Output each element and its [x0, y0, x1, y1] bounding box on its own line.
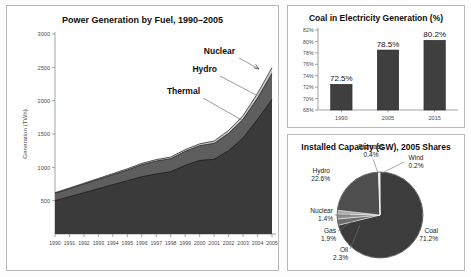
pie-label-name-nuclear: Nuclear — [310, 207, 334, 214]
area-annotations: NuclearHydroThermal — [167, 46, 259, 123]
bar-rect — [331, 84, 352, 110]
bar-y-tick-label: 72% — [303, 84, 314, 90]
pie-label-percent-oil: 2.3% — [333, 254, 348, 261]
area-x-tick-label: 2002 — [223, 240, 235, 246]
area-x-tick-label: 1997 — [150, 240, 162, 246]
bar-value-label: 80.2% — [423, 30, 446, 39]
area-bands — [55, 68, 272, 234]
bar-x-tick-label: 1990 — [335, 115, 347, 121]
area-x-tick-label: 1999 — [179, 240, 191, 246]
area-chart-plot: 5001000150020002500300019901991199219931… — [7, 6, 280, 272]
installed-capacity-pie-panel: Installed Capacity (GW), 2005 Shares Coa… — [287, 134, 465, 271]
annotation-label-thermal: Thermal — [167, 86, 200, 96]
annotation-leader-nuclear — [239, 58, 259, 69]
pie-label-percent-gas: 1.9% — [321, 235, 336, 242]
area-y-tick-label: 1500 — [38, 131, 50, 137]
area-x-tick-label: 2005 — [266, 240, 278, 246]
area-y-tick-label: 1000 — [38, 165, 50, 171]
area-y-tick-label: 3000 — [38, 31, 50, 37]
area-x-tick-label: 1996 — [136, 240, 148, 246]
annotation-leader-thermal — [203, 98, 247, 123]
pie-label-name-oil: Oil — [340, 246, 349, 253]
bar-y-tick-label: 78% — [303, 50, 314, 56]
bar-x-tick-label: 2015 — [428, 115, 440, 121]
area-y-axis-title: Generation (TWh) — [21, 109, 28, 159]
bar-y-tick-label: 80% — [303, 39, 314, 45]
pie-label-name-hydro: Hydro — [312, 167, 330, 175]
annotation-label-hydro: Hydro — [192, 64, 217, 74]
bar-y-tick-label: 82% — [303, 27, 314, 33]
pie-leader-wind — [382, 162, 404, 173]
area-x-tick-label: 1994 — [107, 240, 119, 246]
bar-rect — [424, 40, 445, 110]
area-y-tick-label: 500 — [41, 198, 50, 204]
pie-label-percent-coal: 71.2% — [419, 235, 438, 242]
pie-label-name-wind: Wind — [408, 154, 423, 161]
area-x-tick-label: 1991 — [64, 240, 76, 246]
pie-label-name-biomass: Biomass — [358, 143, 384, 150]
pie-label-percent-biomass: 0.4% — [363, 151, 378, 158]
bar-series: 72.5%78.5%80.2% — [330, 30, 446, 110]
bar-y-tick-label: 70% — [303, 96, 314, 102]
area-x-tick-label: 1998 — [165, 240, 177, 246]
area-x-tick-label: 1995 — [122, 240, 134, 246]
bar-value-label: 78.5% — [377, 40, 400, 49]
pie-label-name-coal: Coal — [424, 227, 438, 234]
power-generation-area-panel: Power Generation by Fuel, 1990–2005 5001… — [6, 5, 279, 271]
area-x-tick-label: 2001 — [208, 240, 220, 246]
bar-chart-plot: 68%70%72%74%76%78%80%82%19902005201572.5… — [288, 6, 466, 129]
pie-label-percent-hydro: 22.6% — [311, 175, 330, 182]
annotation-label-nuclear: Nuclear — [204, 46, 236, 56]
area-x-tick-label: 1990 — [49, 240, 61, 246]
bar-value-label: 72.5% — [330, 74, 353, 83]
area-x-tick-label: 1993 — [93, 240, 105, 246]
area-y-tick-label: 2500 — [38, 65, 50, 71]
area-x-tick-label: 2004 — [252, 240, 264, 246]
pie-label-percent-nuclear: 1.4% — [318, 215, 333, 222]
bar-y-tick-label: 68% — [303, 107, 314, 113]
area-x-tick-label: 2003 — [237, 240, 249, 246]
bar-x-tick-label: 2005 — [382, 115, 394, 121]
area-y-tick-label: 2000 — [38, 98, 50, 104]
bar-y-tick-label: 76% — [303, 61, 314, 67]
pie-leader-biomass — [373, 159, 378, 173]
bar-y-tick-label: 74% — [303, 73, 314, 79]
pie-label-percent-wind: 0.2% — [408, 162, 423, 169]
area-x-tick-label: 1992 — [78, 240, 90, 246]
pie-slice-hydro — [337, 172, 380, 215]
figure-root: Power Generation by Fuel, 1990–2005 5001… — [0, 0, 471, 277]
pie-chart-plot: Coal71.2%Hydro22.6%Biomass0.4%Wind0.2%Nu… — [288, 135, 466, 272]
area-x-tick-label: 2000 — [194, 240, 206, 246]
coal-share-bar-panel: Coal in Electricity Generation (%) 68%70… — [287, 5, 465, 128]
pie-label-name-gas: Gas — [324, 227, 337, 234]
bar-rect — [377, 50, 398, 110]
annotation-leader-hydro — [220, 76, 256, 95]
